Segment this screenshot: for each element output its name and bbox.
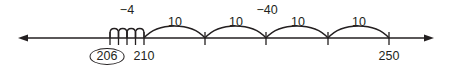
jump-label: 10 [352,16,366,29]
jump-label: 10 [291,16,305,29]
small-jumps [110,29,144,39]
jump-arc [127,29,136,39]
jump-label: 10 [168,16,182,29]
tick-label-210: 210 [134,50,155,63]
jump-arc [136,29,145,39]
tick-label-250: 250 [379,50,400,63]
jump-label: 10 [229,16,243,29]
jump-arc [119,29,128,39]
small-jumps-total-label: −4 [120,4,134,17]
tick-label-206-circled: 206 [90,48,125,65]
left-arrow-icon [18,35,28,42]
right-arrow-icon [424,35,434,42]
number-line-diagram: −4 −40 10 10 10 10 206 210 250 [0,0,452,69]
big-jumps-total-label: −40 [256,4,277,17]
jump-arc [110,29,119,39]
